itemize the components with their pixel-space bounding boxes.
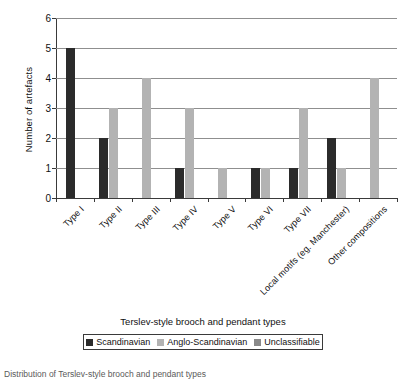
legend-swatch-icon (86, 339, 93, 346)
x-tick-mark (94, 198, 95, 202)
bar-chart-figure: Number of artefacts 0123456 Type IType I… (0, 0, 406, 379)
x-tick-mark (170, 198, 171, 202)
bar (261, 168, 270, 198)
legend-item: Scandinavian (86, 337, 150, 347)
bar (99, 138, 108, 198)
y-tick-label: 0 (45, 193, 51, 204)
legend-item: Unclassifiable (254, 337, 320, 347)
y-tick-label: 6 (45, 13, 51, 24)
x-tick-mark (283, 198, 284, 202)
legend-swatch-icon (254, 339, 261, 346)
bar (289, 168, 298, 198)
y-tick-label: 3 (45, 103, 51, 114)
x-tick-mark (132, 198, 133, 202)
x-tick-label: Type VII (282, 204, 313, 235)
legend-swatch-icon (157, 339, 164, 346)
bar (185, 108, 194, 198)
x-tick-mark (56, 198, 57, 202)
plot-area: 0123456 Type IType IIType IIIType IVType… (56, 18, 397, 198)
y-tick-label: 1 (45, 163, 51, 174)
x-tick-mark (245, 198, 246, 202)
x-axis-line (56, 198, 397, 199)
bar (142, 78, 151, 198)
x-tick-label: Type V (210, 204, 237, 231)
y-axis-title: Number of artefacts (23, 30, 34, 190)
bar (370, 78, 379, 198)
legend-label: Unclassifiable (264, 337, 320, 347)
y-tick-label: 5 (45, 43, 51, 54)
x-tick-label: Type I (61, 204, 86, 229)
figure-caption: Distribution of Terslev-style brooch and… (4, 369, 404, 379)
legend-label: Scandinavian (96, 337, 150, 347)
bars-layer (56, 18, 397, 198)
x-axis-title: Terslev-style brooch and pendant types (0, 316, 406, 327)
chart-legend: ScandinavianAnglo-ScandinavianUnclassifi… (83, 334, 323, 350)
bar (299, 108, 308, 198)
x-tick-label: Type IV (171, 204, 200, 233)
bar (251, 168, 260, 198)
bar (175, 168, 184, 198)
legend-item: Anglo-Scandinavian (157, 337, 247, 347)
bar (327, 138, 336, 198)
x-tick-mark (208, 198, 209, 202)
y-tick-label: 4 (45, 73, 51, 84)
legend-label: Anglo-Scandinavian (167, 337, 247, 347)
y-tick-label: 2 (45, 133, 51, 144)
bar (337, 168, 346, 198)
x-tick-label: Type II (97, 204, 124, 231)
bar (218, 168, 227, 198)
x-tick-label: Type III (133, 204, 162, 233)
x-tick-label: Type VI (246, 204, 275, 233)
bar (109, 108, 118, 198)
x-tick-mark (359, 198, 360, 202)
x-tick-mark (397, 198, 398, 202)
bar (66, 48, 75, 198)
x-tick-mark (321, 198, 322, 202)
